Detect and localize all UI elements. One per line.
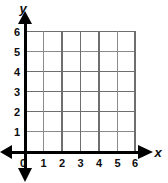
x-axis-name-label: x xyxy=(153,145,162,160)
x-axis-arrow-left-icon xyxy=(0,145,12,159)
x-tick-label-2: 2 xyxy=(59,157,65,169)
x-axis-tick-labels: 0 1 2 3 4 5 6 xyxy=(20,157,138,169)
x-tick-label-3: 3 xyxy=(77,157,83,169)
x-axis-arrow-right-icon xyxy=(138,145,153,159)
y-axis-name-label: y xyxy=(18,1,27,16)
y-tick-label-6: 6 xyxy=(14,26,20,38)
y-axis-arrow-down-icon xyxy=(18,168,32,182)
y-tick-label-3: 3 xyxy=(14,86,20,98)
coordinate-plane-svg: 0 1 2 3 4 5 6 1 2 3 4 5 6 x y xyxy=(0,0,168,183)
x-tick-label-0: 0 xyxy=(20,157,26,169)
y-tick-label-5: 5 xyxy=(14,46,20,58)
x-tick-label-4: 4 xyxy=(96,157,103,169)
x-tick-label-1: 1 xyxy=(40,157,46,169)
x-tick-label-6: 6 xyxy=(132,157,138,169)
y-axis-tick-labels: 1 2 3 4 5 6 xyxy=(14,26,21,138)
y-tick-label-4: 4 xyxy=(14,66,21,78)
y-tick-label-2: 2 xyxy=(14,106,20,118)
x-tick-label-5: 5 xyxy=(114,157,120,169)
coordinate-grid-figure: 0 1 2 3 4 5 6 1 2 3 4 5 6 x y xyxy=(0,0,168,183)
y-tick-label-1: 1 xyxy=(14,126,20,138)
